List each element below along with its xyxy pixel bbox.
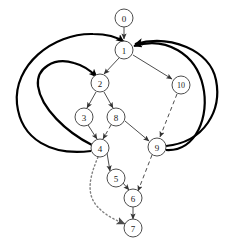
edge-4-to-1-outer bbox=[17, 34, 124, 152]
edge-8-to-9 bbox=[125, 121, 149, 141]
node-10-circle[interactable] bbox=[172, 76, 190, 94]
node-8[interactable]: 8 bbox=[107, 108, 125, 126]
edge-1-to-2 bbox=[104, 58, 119, 74]
node-4-circle[interactable] bbox=[91, 139, 109, 157]
edge-2-to-8 bbox=[104, 92, 113, 108]
edge-5-to-6 bbox=[123, 183, 129, 190]
edge-9-to-6 bbox=[138, 155, 152, 191]
node-7[interactable]: 7 bbox=[124, 219, 142, 237]
edge-3-to-4 bbox=[88, 125, 97, 139]
node-0-circle[interactable] bbox=[115, 9, 133, 27]
node-0[interactable]: 0 bbox=[115, 9, 133, 27]
node-10[interactable]: 10 bbox=[172, 76, 190, 94]
graph-canvas: 0 1 2 3 8 4 5 6 bbox=[0, 0, 227, 244]
node-1[interactable]: 1 bbox=[115, 41, 133, 59]
node-4[interactable]: 4 bbox=[91, 139, 109, 157]
node-3-circle[interactable] bbox=[75, 108, 93, 126]
edge-4-to-7 bbox=[90, 157, 125, 224]
node-6[interactable]: 6 bbox=[124, 189, 142, 207]
edge-9-to-1-inner bbox=[134, 43, 205, 150]
node-5-circle[interactable] bbox=[107, 169, 125, 187]
node-3[interactable]: 3 bbox=[75, 108, 93, 126]
edge-4-to-5 bbox=[107, 153, 110, 171]
directed-graph-svg: 0 1 2 3 8 4 5 6 bbox=[0, 0, 227, 244]
node-5[interactable]: 5 bbox=[107, 169, 125, 187]
node-7-circle[interactable] bbox=[124, 219, 142, 237]
node-2[interactable]: 2 bbox=[91, 74, 109, 92]
node-6-circle[interactable] bbox=[124, 189, 142, 207]
node-1-circle[interactable] bbox=[115, 41, 133, 59]
edge-8-to-4 bbox=[103, 125, 111, 139]
edge-2-to-3 bbox=[87, 92, 96, 108]
edge-4-to-2-inner bbox=[38, 61, 97, 145]
node-9[interactable]: 9 bbox=[148, 138, 166, 156]
node-9-circle[interactable] bbox=[148, 138, 166, 156]
node-8-circle[interactable] bbox=[107, 108, 125, 126]
edge-1-to-10 bbox=[133, 55, 172, 79]
node-2-circle[interactable] bbox=[91, 74, 109, 92]
edge-10-to-9 bbox=[160, 94, 177, 137]
